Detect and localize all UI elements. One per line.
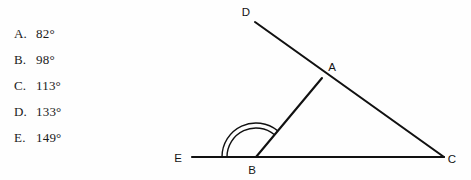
vertex-label-d: D xyxy=(242,6,250,18)
answer-choice-a-value: 82° xyxy=(36,26,55,42)
question-figure-page: A. 82° B. 98° C. 113° D. 133° E. 149° xyxy=(0,0,471,180)
line-d-to-c xyxy=(255,22,444,157)
answer-choice-c[interactable]: C. 113° xyxy=(14,78,61,94)
answer-choice-e-letter: E. xyxy=(14,130,36,146)
answer-choice-a-letter: A. xyxy=(14,26,36,42)
answer-choice-d-value: 133° xyxy=(36,104,62,120)
answer-choice-c-letter: C. xyxy=(14,78,36,94)
answer-choice-a[interactable]: A. 82° xyxy=(14,26,55,42)
answer-choice-c-value: 113° xyxy=(36,78,61,94)
vertex-label-c: C xyxy=(448,153,456,165)
answer-choice-b-letter: B. xyxy=(14,52,36,68)
segment-b-to-a xyxy=(256,78,322,157)
vertex-label-a: A xyxy=(328,61,336,73)
geometry-diagram: D A C B E xyxy=(160,0,471,180)
answer-choice-e-value: 149° xyxy=(36,130,62,146)
answer-choice-d[interactable]: D. 133° xyxy=(14,104,62,120)
answer-choice-e[interactable]: E. 149° xyxy=(14,130,62,146)
answer-choice-b-value: 98° xyxy=(36,52,55,68)
answer-choice-b[interactable]: B. 98° xyxy=(14,52,55,68)
answer-choice-list: A. 82° B. 98° C. 113° D. 133° E. 149° xyxy=(0,0,160,180)
answer-choice-d-letter: D. xyxy=(14,104,36,120)
vertex-label-b: B xyxy=(248,164,256,176)
vertex-label-e: E xyxy=(174,152,182,164)
geometry-diagram-svg: D A C B E xyxy=(160,0,471,180)
